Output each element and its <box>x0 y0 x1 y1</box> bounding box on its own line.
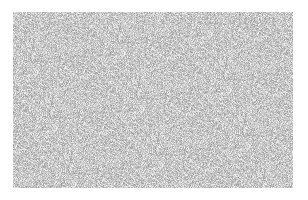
noise-texture <box>13 12 293 188</box>
image-frame <box>0 0 308 200</box>
